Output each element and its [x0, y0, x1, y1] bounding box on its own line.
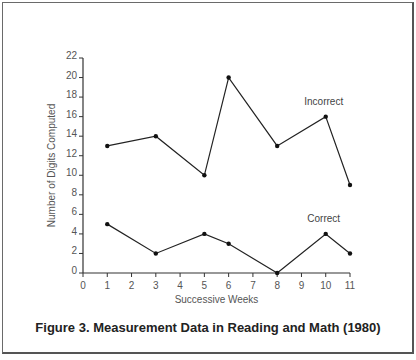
series-line-correct [107, 224, 350, 273]
y-tick-label: 6 [71, 206, 77, 217]
series-label-correct: Correct [307, 213, 340, 224]
y-tick-label: 20 [66, 70, 78, 81]
data-point-correct [348, 251, 352, 255]
x-tick-label: 9 [299, 280, 305, 291]
data-point-correct [324, 232, 328, 236]
x-axis-title: Successive Weeks [175, 294, 259, 305]
y-tick-label: 12 [66, 148, 78, 159]
y-tick-label: 10 [66, 167, 78, 178]
x-tick-label: 1 [104, 280, 110, 291]
data-point-correct [202, 232, 206, 236]
x-tick-label: 3 [153, 280, 159, 291]
series-line-incorrect [107, 78, 350, 186]
x-tick-label: 0 [80, 280, 86, 291]
x-tick-label: 11 [345, 280, 356, 291]
series-group: IncorrectCorrect [105, 75, 352, 275]
y-tick-label: 16 [66, 109, 78, 120]
x-tick-label: 8 [274, 280, 280, 291]
x-tick-label: 4 [177, 280, 183, 291]
data-point-incorrect [324, 114, 328, 118]
data-point-correct [105, 222, 109, 226]
data-point-incorrect [202, 173, 206, 177]
figure-caption: Figure 3. Measurement Data in Reading an… [0, 320, 416, 335]
axes: 024681012141618202201234567891011 [66, 50, 356, 291]
data-point-incorrect [154, 134, 158, 138]
data-point-incorrect [226, 75, 230, 79]
x-tick-label: 2 [129, 280, 135, 291]
data-point-incorrect [275, 144, 279, 148]
x-tick-label: 6 [226, 280, 232, 291]
y-tick-label: 22 [66, 50, 78, 61]
y-tick-label: 8 [71, 187, 77, 198]
x-tick-label: 7 [250, 280, 256, 291]
y-tick-label: 0 [71, 265, 77, 276]
data-point-incorrect [348, 183, 352, 187]
line-chart: 024681012141618202201234567891011 Incorr… [0, 0, 416, 360]
y-tick-label: 14 [66, 128, 78, 139]
series-label-incorrect: Incorrect [304, 96, 343, 107]
y-tick-label: 4 [71, 226, 77, 237]
data-point-correct [226, 241, 230, 245]
y-tick-label: 2 [71, 245, 77, 256]
x-tick-label: 5 [202, 280, 208, 291]
x-tick-label: 10 [320, 280, 332, 291]
y-tick-label: 18 [66, 89, 78, 100]
data-point-correct [154, 251, 158, 255]
data-point-correct [275, 271, 279, 275]
data-point-incorrect [105, 144, 109, 148]
y-axis-title: Number of Digits Computed [46, 104, 57, 227]
